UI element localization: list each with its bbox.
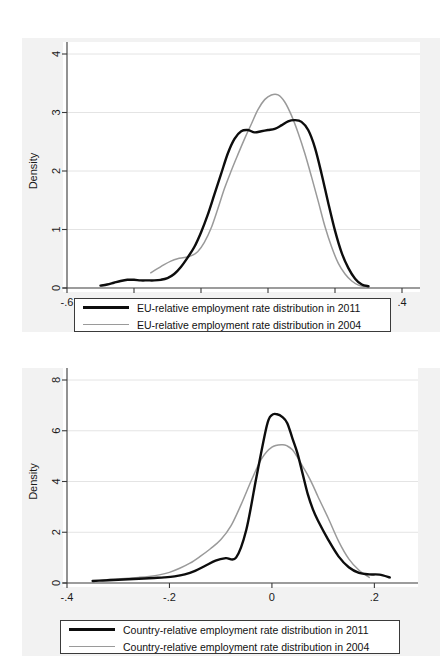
x-tick-label: -.4 bbox=[61, 591, 74, 603]
chart-eu-relative: 01234-.6-.4-.20.2.4Density bbox=[22, 38, 440, 332]
y-axis-title: Density bbox=[27, 463, 39, 500]
legend-item-2004: Country-relative employment rate distrib… bbox=[61, 638, 399, 655]
x-tick-label: .4 bbox=[397, 296, 406, 308]
legend-line-2011-icon bbox=[83, 303, 129, 313]
country-relative-density-plot: 02468-.4-.20.2Density bbox=[22, 368, 440, 656]
y-tick-label: 2 bbox=[50, 168, 62, 174]
plot-area-background bbox=[63, 42, 420, 292]
y-tick-label: 0 bbox=[50, 285, 62, 291]
legend-item-2004: EU-relative employment rate distribution… bbox=[75, 316, 390, 333]
y-tick-label: 6 bbox=[50, 428, 62, 434]
y-tick-label: 3 bbox=[50, 109, 62, 115]
legend-item-2011: Country-relative employment rate distrib… bbox=[61, 621, 399, 638]
y-tick-label: 8 bbox=[50, 377, 62, 383]
x-tick-label: .2 bbox=[370, 591, 379, 603]
figure-page: 01234-.6-.4-.20.2.4Density EU-relative e… bbox=[0, 0, 448, 668]
plot-area-background bbox=[63, 368, 418, 587]
legend-label-2004: EU-relative employment rate distribution… bbox=[137, 319, 361, 331]
legend-line-2004-icon bbox=[69, 642, 115, 652]
eu-relative-density-plot: 01234-.6-.4-.20.2.4Density bbox=[22, 38, 440, 332]
legend-label-2011: Country-relative employment rate distrib… bbox=[123, 624, 369, 636]
legend-line-2011-icon bbox=[69, 625, 115, 635]
legend-label-2011: EU-relative employment rate distribution… bbox=[137, 302, 360, 314]
y-tick-label: 4 bbox=[50, 478, 62, 484]
x-tick-label: -.2 bbox=[163, 591, 176, 603]
x-tick-label: 0 bbox=[269, 591, 275, 603]
legend-eu-relative: EU-relative employment rate distribution… bbox=[74, 298, 391, 332]
legend-country-relative: Country-relative employment rate distrib… bbox=[60, 620, 400, 654]
x-tick-label: -.6 bbox=[61, 296, 74, 308]
y-tick-label: 2 bbox=[50, 529, 62, 535]
y-axis-title: Density bbox=[27, 152, 39, 189]
legend-label-2004: Country-relative employment rate distrib… bbox=[123, 641, 369, 653]
y-tick-label: 1 bbox=[50, 226, 62, 232]
y-tick-label: 0 bbox=[50, 580, 62, 586]
legend-line-2004-icon bbox=[83, 320, 129, 330]
legend-item-2011: EU-relative employment rate distribution… bbox=[75, 299, 390, 316]
y-tick-label: 4 bbox=[50, 51, 62, 57]
chart-country-relative: 02468-.4-.20.2Density bbox=[22, 368, 440, 656]
